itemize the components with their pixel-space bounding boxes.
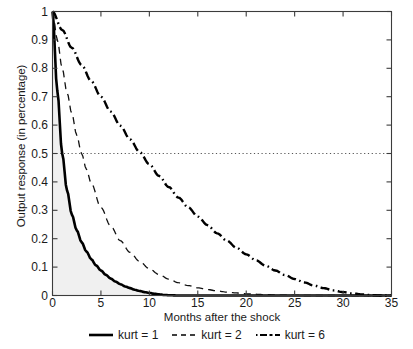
legend-swatch-dashed (171, 330, 197, 340)
chart-figure: Output response (in percentage) Months a… (0, 0, 413, 349)
legend-swatch-dashdot (255, 330, 281, 340)
legend-item[interactable]: kurt = 2 (171, 329, 241, 341)
plot-background (53, 12, 392, 296)
legend-item[interactable]: kurt = 6 (255, 329, 325, 341)
legend-label: kurt = 2 (201, 329, 241, 341)
legend-label: kurt = 1 (118, 329, 158, 341)
plot-canvas (0, 0, 413, 349)
legend-item[interactable]: kurt = 1 (88, 329, 158, 341)
legend-label: kurt = 6 (285, 329, 325, 341)
legend-swatch-solid (88, 330, 114, 340)
chart-legend: kurt = 1kurt = 2kurt = 6 (0, 329, 413, 341)
